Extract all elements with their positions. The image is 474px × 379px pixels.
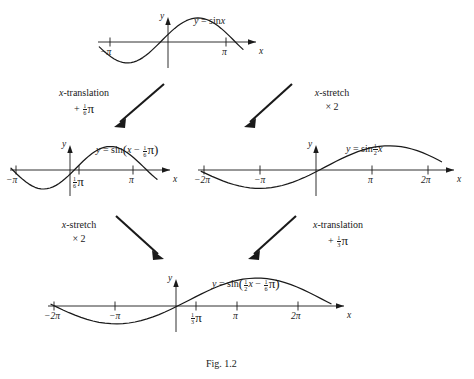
x-tick-label-pi-over-6: 16π xyxy=(72,175,84,190)
arrow-head xyxy=(248,250,260,260)
figure-caption: Fig. 1.2 xyxy=(206,358,237,369)
op-bottom-right: x-translation + 13π xyxy=(296,218,380,249)
x-tick-label--pi: −π xyxy=(100,48,111,58)
equation-label-mid-left: y = sin(x − 16π) xyxy=(96,143,158,158)
x-axis-label: x xyxy=(347,311,351,321)
arrow-top-left xyxy=(108,78,170,134)
x-axis-label: x xyxy=(173,175,177,185)
graph-mid-right: y x −2π −π π 2π y = sin12x xyxy=(196,140,468,198)
x-axis-label: x xyxy=(259,47,263,57)
x-axis-arrowhead xyxy=(162,167,170,173)
graph-bottom: y x −2π −π 13π π 2π y = sin(12x − 16π) xyxy=(46,272,358,334)
sine-curve xyxy=(201,146,441,189)
y-axis-label: y xyxy=(168,274,172,284)
arrow-shaft xyxy=(254,216,296,254)
arrow-shaft xyxy=(120,84,164,122)
x-tick-label-pi: π xyxy=(233,312,238,322)
x-axis-arrowhead xyxy=(446,167,454,173)
x-tick-label--2pi: −2π xyxy=(194,176,210,186)
y-axis-arrowhead xyxy=(173,279,178,287)
graph-mid-right-plot xyxy=(196,140,468,198)
x-tick-label-pi: π xyxy=(129,176,134,186)
graph-bottom-plot xyxy=(46,272,358,334)
arrow-top-right xyxy=(238,78,300,134)
arrow-shaft xyxy=(116,216,158,254)
graph-mid-left: y x −π 16π π y = sin(x − 16π) xyxy=(8,140,180,198)
op-bottom-left: x-stretch × 2 xyxy=(42,218,116,245)
x-tick-label--2pi: −2π xyxy=(44,312,60,322)
x-axis-label: x xyxy=(457,175,461,185)
op-bottom-right-line2: + 13π xyxy=(296,232,380,250)
x-tick-label--pi: −π xyxy=(6,176,17,186)
x-tick-label--pi: −π xyxy=(109,312,120,322)
equation-label-mid-right: y = sin12x xyxy=(346,143,383,157)
op-bottom-left-line2: × 2 xyxy=(42,232,116,246)
op-bottom-right-line1: x-translation xyxy=(296,218,380,232)
arrow-bottom-right xyxy=(242,210,304,266)
op-top-right-line1: x-stretch xyxy=(295,86,369,100)
arrow-head xyxy=(152,250,164,260)
y-axis-label: y xyxy=(160,12,164,22)
x-tick-label--pi: −π xyxy=(254,176,265,186)
op-bottom-left-line1: x-stretch xyxy=(42,218,116,232)
graph-top: y x −π π y = sinx xyxy=(96,14,266,70)
equation-label-top: y = sinx xyxy=(194,16,225,26)
x-tick-label-pi-over-3: 13π xyxy=(190,311,202,326)
x-axis-arrowhead xyxy=(336,303,344,309)
y-axis-label: y xyxy=(62,140,66,150)
y-axis-arrowhead xyxy=(67,145,72,153)
graph-top-plot xyxy=(96,14,266,70)
arrow-shaft xyxy=(250,84,292,122)
y-axis-arrowhead xyxy=(313,145,318,153)
x-tick-label-2pi: 2π xyxy=(421,176,431,186)
op-top-right-line2: × 2 xyxy=(295,100,369,114)
x-tick-label-pi: π xyxy=(222,48,227,58)
y-axis-arrowhead xyxy=(165,17,170,25)
y-axis-label: y xyxy=(308,140,312,150)
x-tick-label-2pi: 2π xyxy=(291,312,301,322)
arrow-head xyxy=(114,118,126,128)
arrow-head xyxy=(244,118,256,128)
x-tick-label-pi: π xyxy=(368,176,373,186)
equation-label-bottom: y = sin(12x − 16π) xyxy=(212,277,280,292)
op-top-right: x-stretch × 2 xyxy=(295,86,369,113)
figure-canvas: y x −π π y = sinx x-translation + 16π x-… xyxy=(0,0,474,379)
x-axis-arrowhead xyxy=(248,39,256,45)
arrow-bottom-left xyxy=(108,210,170,266)
